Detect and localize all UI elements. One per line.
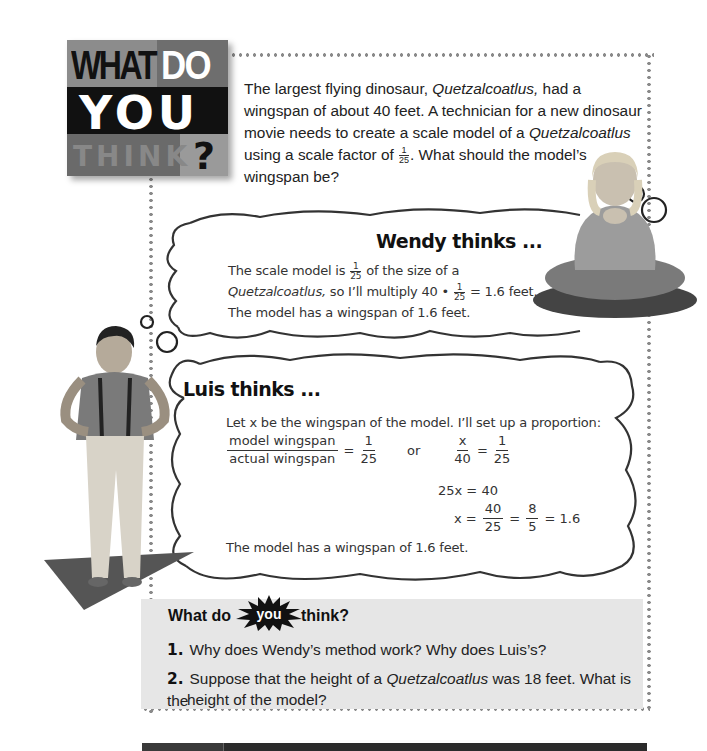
or-label: or (407, 443, 420, 458)
equals-sign: = (509, 511, 520, 526)
fraction-numerator: x (457, 434, 469, 451)
logo-text-what: WHAT (71, 42, 155, 89)
wendy-thinks-title: Wendy thinks ... (376, 230, 542, 252)
wendy-photo (530, 150, 700, 320)
questions-title-you: you (252, 606, 286, 622)
luis-line-1: Let x be the wingspan of the model. I’ll… (226, 413, 616, 433)
questions-title-part-1: What do (168, 607, 231, 625)
luis-thinks-title: Luis thinks ... (183, 378, 320, 400)
fraction: 125 (350, 262, 361, 281)
fraction: 125 (454, 283, 465, 302)
proportion-equation-words: model wingspanactual wingspan = 125 or x… (227, 434, 510, 467)
fraction-numerator: 40 (483, 502, 504, 519)
fraction-numerator: model wingspan (227, 434, 338, 451)
question-number: 1. (167, 641, 184, 659)
fraction-numerator: 8 (526, 502, 538, 519)
fraction-numerator: 1 (496, 434, 508, 451)
question-1: 1.Why does Wendy’s method work? Why does… (167, 639, 546, 661)
fraction-denominator: actual wingspan (229, 451, 335, 467)
species-name: Quetzalcoatlus (386, 670, 488, 687)
question-text: Suppose that the height of a (190, 670, 387, 687)
fraction: 125 (494, 434, 511, 467)
equation-25x: 25x = 40 (438, 483, 498, 498)
fraction-denominator: 25 (399, 156, 409, 165)
fraction-denominator: 25 (350, 272, 361, 281)
fraction: 85 (526, 502, 538, 535)
equation-text: = 1.6 (544, 511, 580, 526)
fraction-denominator: 40 (454, 451, 471, 467)
fraction-denominator: 25 (494, 451, 511, 467)
intro-text: The largest flying dinosaur, (244, 80, 432, 97)
fraction: x40 (454, 434, 471, 467)
fraction-denominator: 25 (360, 451, 377, 467)
fraction-denominator: 25 (485, 519, 502, 535)
logo-text-think: THINK (73, 140, 191, 173)
dotted-border-top (230, 53, 654, 57)
species-name: Quetzalcoatlus, (228, 284, 326, 299)
species-name: Quetzalcoatlus, (432, 80, 538, 97)
species-name: Quetzalcoatlus (529, 124, 631, 141)
logo-text-do: DO (161, 42, 210, 89)
logo-text-you: YOU (79, 86, 199, 140)
fraction-denominator: 5 (528, 519, 536, 535)
next-section-header-tab (142, 743, 224, 751)
luis-photo (44, 320, 194, 610)
question-number: 2. (167, 670, 184, 688)
fraction-denominator: 25 (454, 293, 465, 302)
wendy-text: so I’ll multiply 40 • (326, 284, 453, 299)
logo-question-mark: ? (193, 134, 215, 178)
intro-text: using a scale factor of (244, 146, 398, 163)
questions-title-part-2: think? (301, 607, 349, 625)
question-text: Why does Wendy’s method work? Why does L… (190, 641, 547, 658)
wendy-text: The scale model is (228, 263, 349, 278)
what-do-you-think-logo: WHAT DO YOU THINK ? (67, 40, 228, 176)
equation-text: x = (454, 511, 477, 526)
scale-factor-fraction: 125 (399, 146, 409, 165)
fraction-numerator: 1 (363, 434, 375, 451)
equals-sign: = (477, 443, 488, 458)
luis-conclusion: The model has a wingspan of 1.6 feet. (226, 540, 468, 555)
wendy-text: of the size of a (362, 263, 459, 278)
equals-sign: = (344, 443, 355, 458)
fraction: 125 (360, 434, 377, 467)
fraction: model wingspanactual wingspan (227, 434, 338, 467)
equation-solve-x: x = 4025 = 85 = 1.6 (454, 502, 580, 535)
question-2-continued: height of the model? (187, 689, 326, 710)
wendy-text: = 1.6 feet. (466, 284, 537, 299)
fraction: 4025 (483, 502, 504, 535)
